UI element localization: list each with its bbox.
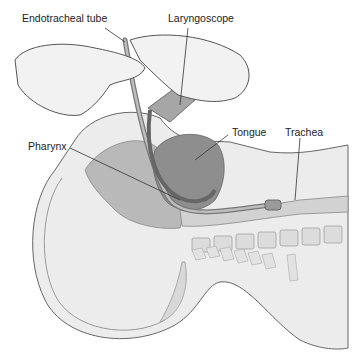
label-tongue: Tongue — [232, 126, 266, 138]
label-endotracheal-tube: Endotracheal tube — [22, 12, 107, 24]
tube-cuff — [265, 200, 281, 210]
label-pharynx: Pharynx — [28, 140, 67, 152]
label-trachea: Trachea — [285, 126, 323, 138]
label-laryngoscope: Laryngoscope — [168, 12, 234, 24]
right-gloved-hand — [130, 35, 249, 101]
intubation-diagram: Endotracheal tube Laryngoscope Tongue Tr… — [0, 0, 363, 353]
